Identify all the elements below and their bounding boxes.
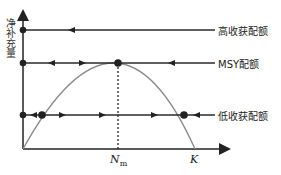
- msy-label: MSY配额: [218, 56, 259, 71]
- high-harvest-label: 高收获配额: [218, 23, 268, 38]
- low-unstable-dot: [38, 111, 46, 119]
- arrow-left-icon: [193, 112, 200, 118]
- nm-main: N: [110, 153, 120, 166]
- arrow-left-icon: [168, 60, 175, 66]
- arrow-left-icon: [48, 60, 55, 66]
- arrow-right-icon: [59, 112, 66, 118]
- high-harvest-dot: [20, 27, 27, 34]
- k-label: K: [190, 153, 198, 166]
- recruitment-curve: [23, 63, 195, 149]
- msy-origin-dot: [20, 60, 27, 67]
- nm-label: Nm: [110, 153, 127, 168]
- arrow-right-icon: [151, 112, 158, 118]
- low-harvest-label: 低收获配额: [218, 108, 268, 123]
- low-origin-dot: [20, 112, 27, 119]
- low-stable-dot: [180, 111, 188, 119]
- arrow-left-icon: [30, 112, 37, 118]
- arrow-left-icon: [68, 27, 75, 33]
- msy-equilibrium-dot: [114, 59, 122, 67]
- arrow-right-icon: [99, 112, 106, 118]
- nm-sub: m: [120, 159, 128, 168]
- arrow-right-icon: [79, 60, 86, 66]
- y-axis-label: 净补充量: [3, 18, 15, 58]
